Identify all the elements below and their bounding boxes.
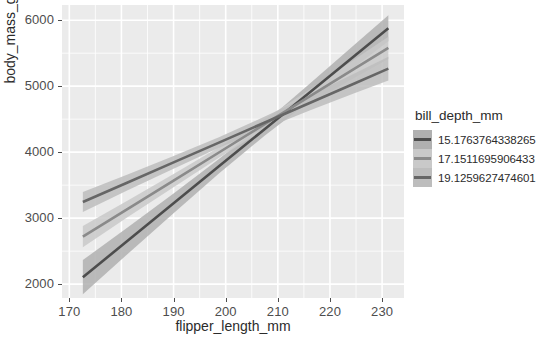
y-axis-title: body_mass_g — [2, 0, 18, 100]
x-tick-mark — [382, 298, 383, 302]
plot-panel — [62, 5, 404, 298]
legend-item-label: 15.1763764338265 — [438, 134, 536, 146]
x-tick-mark — [174, 298, 175, 302]
y-tick-label: 4000 — [8, 144, 54, 159]
x-axis-title: flipper_length_mm — [62, 318, 404, 334]
legend-item[interactable]: 15.1763764338265 — [413, 130, 546, 149]
y-tick-mark — [58, 86, 62, 87]
x-tick-mark — [330, 298, 331, 302]
x-tick-label: 190 — [149, 304, 199, 319]
legend-key-line — [414, 138, 431, 141]
series-line — [83, 48, 389, 237]
x-tick-label: 180 — [96, 304, 146, 319]
series-line — [83, 28, 389, 277]
legend-item-label: 17.1511695906433 — [438, 153, 535, 165]
legend: bill_depth_mm 15.176376433826517.1511695… — [413, 108, 546, 187]
x-tick-label: 220 — [305, 304, 355, 319]
legend-key-line — [414, 176, 431, 179]
panel-series-layer — [62, 5, 404, 298]
y-tick-mark — [58, 284, 62, 285]
legend-key-swatch — [413, 149, 432, 168]
legend-item-label: 19.1259627474601 — [438, 172, 536, 184]
x-tick-mark — [278, 298, 279, 302]
legend-title: bill_depth_mm — [415, 108, 546, 123]
y-axis-title-label: body_mass_g — [2, 0, 18, 100]
y-tick-mark — [58, 20, 62, 21]
legend-items: 15.176376433826517.151169590643319.12596… — [413, 130, 546, 187]
x-tick-label: 230 — [357, 304, 407, 319]
legend-item[interactable]: 17.1511695906433 — [413, 149, 546, 168]
y-tick-label: 2000 — [8, 276, 54, 291]
series-line — [83, 69, 389, 202]
confidence-ribbon — [83, 15, 389, 294]
legend-key-line — [414, 157, 431, 160]
x-tick-label: 200 — [201, 304, 251, 319]
legend-key-swatch — [413, 168, 432, 187]
y-tick-mark — [58, 218, 62, 219]
legend-key-swatch — [413, 130, 432, 149]
x-tick-label: 170 — [44, 304, 94, 319]
x-tick-mark — [121, 298, 122, 302]
y-tick-mark — [58, 152, 62, 153]
legend-item[interactable]: 19.1259627474601 — [413, 168, 546, 187]
chart-figure: 2000300040005000600017018019020021022023… — [0, 0, 546, 340]
y-tick-label: 3000 — [8, 210, 54, 225]
x-tick-mark — [226, 298, 227, 302]
x-tick-label: 210 — [253, 304, 303, 319]
x-tick-mark — [69, 298, 70, 302]
